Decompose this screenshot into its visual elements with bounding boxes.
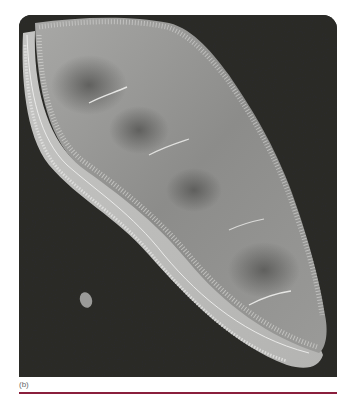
caption-rule-divider [19, 392, 337, 394]
sem-micrograph [19, 15, 337, 377]
figure-caption-label: (b) [19, 380, 29, 389]
diatom-illustration [19, 15, 337, 377]
